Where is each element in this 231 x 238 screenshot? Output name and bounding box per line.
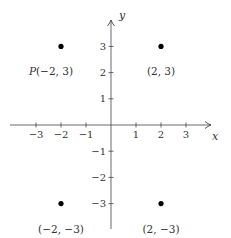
data-point	[158, 201, 163, 206]
y-axis-label: y	[118, 9, 126, 22]
x-axis-label: x	[212, 130, 219, 143]
data-point	[58, 44, 63, 49]
data-point	[58, 201, 63, 206]
data-point	[158, 44, 163, 49]
x-tick-label: 1	[133, 129, 139, 140]
point-label: (−2, −3)	[38, 223, 84, 235]
y-tick-label: 2	[100, 67, 106, 78]
x-tick-label: −2	[54, 129, 69, 140]
point-label: (2, −3)	[142, 223, 179, 235]
y-tick-label: −3	[91, 198, 106, 209]
point-label: P(−2, 3)	[28, 65, 73, 77]
x-tick-label: −1	[79, 129, 94, 140]
x-tick-label: −3	[29, 129, 44, 140]
y-tick-label: −2	[91, 172, 106, 183]
y-tick-label: −1	[91, 146, 106, 157]
x-tick-label: 2	[158, 129, 164, 140]
y-tick-label: 3	[100, 41, 106, 52]
point-label: (2, 3)	[147, 65, 175, 77]
coordinate-plane: x y −3−2−1123 321−1−2−3 P(−2, 3)(2, 3)(−…	[0, 0, 231, 238]
y-tick-label: 1	[100, 93, 106, 104]
x-tick-label: 3	[183, 129, 189, 140]
